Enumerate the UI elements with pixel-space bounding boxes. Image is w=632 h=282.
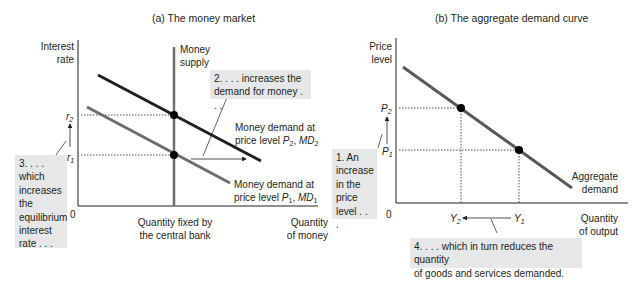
x-label-line2: of output xyxy=(566,225,618,238)
ad-label-line1: Aggregate xyxy=(570,170,618,183)
equilibrium-point-r2 xyxy=(170,111,178,119)
x-label-line2: of money xyxy=(278,229,328,242)
panel-b-origin: 0 xyxy=(386,208,392,221)
md2-label: Money demand at price level P2, MD2 xyxy=(235,121,318,150)
p1-label: P1 xyxy=(382,145,393,161)
note-3-line: equilibrium xyxy=(19,211,63,224)
note-3-line: interest xyxy=(19,224,63,237)
note-1: 1. An increase in the price level . . . xyxy=(332,149,377,219)
fixed-quantity-label: Quantity fixed by the central bank xyxy=(133,216,217,242)
aggregate-demand-line xyxy=(403,67,572,188)
panel-b-title: (b) The aggregate demand curve xyxy=(435,12,588,24)
y-label-line2: rate xyxy=(36,53,74,66)
note-1-line: in the xyxy=(336,178,373,191)
y-label-line1: Interest xyxy=(36,40,74,53)
r1-label: r1 xyxy=(67,151,74,167)
note-3: 3. . . . which increases the equilibrium… xyxy=(15,155,67,248)
y2-label: Y2 xyxy=(450,212,461,228)
panel-b-x-axis-label: Quantity of output xyxy=(566,212,618,238)
note-2-line1: 2. . . . increases the xyxy=(214,72,307,85)
money-supply-label: Money supply xyxy=(180,43,210,69)
panel-a-x-axis-label: Quantity of money xyxy=(278,216,328,242)
panel-a-title: (a) The money market xyxy=(152,12,255,24)
y1-label: Y1 xyxy=(514,212,525,228)
md1-label-line1: Money demand at xyxy=(234,178,317,191)
note-4-line2: of goods and services demanded. xyxy=(414,267,578,280)
note-3-line: which xyxy=(19,170,63,183)
supply-label-line1: Money xyxy=(180,43,210,56)
note-1-line: increase xyxy=(336,164,373,177)
note-2-line2: demand for money . . . xyxy=(214,85,307,112)
panel-a-origin: 0 xyxy=(70,208,76,221)
y-label-line2: level xyxy=(356,53,392,66)
r2-label: r2 xyxy=(66,110,73,126)
md2-label-line1: Money demand at xyxy=(235,121,318,134)
note-3-leader xyxy=(56,141,66,155)
note-3-line: 3. . . . xyxy=(19,157,63,170)
note-3-line: the xyxy=(19,197,63,210)
ad-point-p2 xyxy=(457,104,465,112)
ad-point-p1 xyxy=(515,146,523,154)
fixed-label-line2: the central bank xyxy=(133,229,217,242)
note-2: 2. . . . increases the demand for money … xyxy=(210,70,311,99)
p2-label: P2 xyxy=(381,102,392,118)
x-label-line1: Quantity xyxy=(566,212,618,225)
note-1-line: level . . . xyxy=(336,205,373,232)
y-label-line1: Price xyxy=(356,40,392,53)
note-4-leader xyxy=(491,219,497,233)
ad-label-line2: demand xyxy=(570,183,618,196)
supply-label-line2: supply xyxy=(180,56,210,69)
panel-b-y-axis-label: Price level xyxy=(356,40,392,66)
aggregate-demand-label: Aggregate demand xyxy=(570,170,618,196)
note-3-line: increases xyxy=(19,184,63,197)
fixed-label-line1: Quantity fixed by xyxy=(133,216,217,229)
x-label-line1: Quantity xyxy=(278,216,328,229)
panel-a-y-axis-label: Interest rate xyxy=(36,40,74,66)
note-4-line1: 4. . . . which in turn reduces the quant… xyxy=(414,240,578,267)
note-4: 4. . . . which in turn reduces the quant… xyxy=(410,238,582,268)
equilibrium-point-r1 xyxy=(170,151,178,159)
note-1-line: price xyxy=(336,191,373,204)
md1-line xyxy=(87,107,230,183)
note-1-line: 1. An xyxy=(336,151,373,164)
note-3-line: rate . . . xyxy=(19,237,63,250)
md1-label: Money demand at price level P1, MD1 xyxy=(234,178,317,207)
